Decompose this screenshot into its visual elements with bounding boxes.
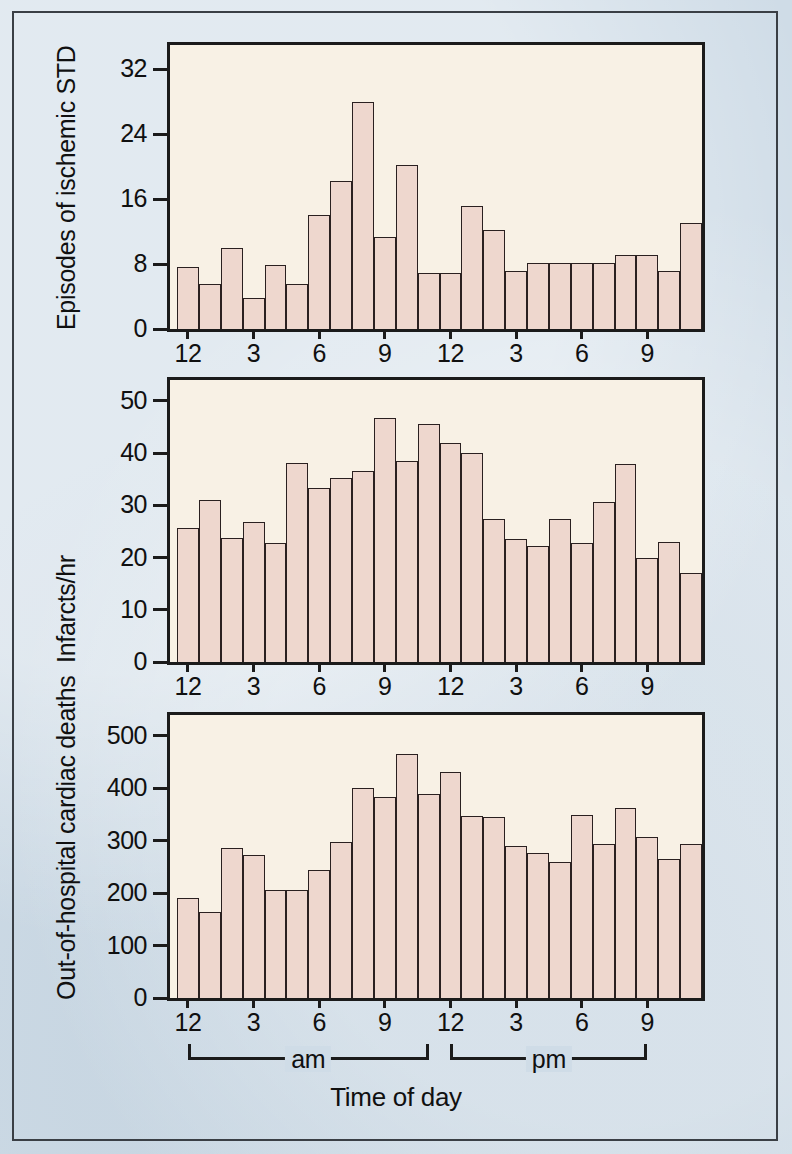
x-tick-label: 6	[289, 672, 349, 701]
y-tick-mark	[153, 504, 168, 507]
y-tick-mark	[153, 608, 168, 611]
bar	[265, 543, 287, 662]
bar	[549, 862, 571, 998]
bar	[199, 500, 221, 662]
x-tick-label: 3	[486, 1008, 546, 1037]
y-tick-label: 400	[72, 773, 147, 802]
y-tick-mark	[153, 892, 168, 895]
x-tick-label: 12	[420, 672, 480, 701]
x-tick-label: 12	[420, 1008, 480, 1037]
x-tick-mark	[646, 999, 649, 1008]
bar	[286, 890, 308, 998]
bar	[177, 898, 199, 998]
y-tick-label: 20	[72, 543, 147, 572]
chart-panel-cardiac-deaths: Out-of-hospital cardiac deaths 010020030…	[0, 0, 792, 440]
y-tick-label: 10	[72, 595, 147, 624]
y-tick-mark	[153, 734, 168, 737]
bar	[527, 546, 549, 662]
bar	[286, 463, 308, 662]
x-tick-label: 3	[486, 672, 546, 701]
bar	[505, 846, 527, 998]
y-tick-label: 500	[72, 721, 147, 750]
x-tick-mark	[515, 663, 518, 672]
x-tick-mark	[580, 999, 583, 1008]
bar	[571, 815, 593, 998]
figure-page: Episodes of ischemic STD 08162432 123691…	[0, 0, 792, 1154]
bar	[221, 538, 243, 662]
y-tick-mark	[153, 944, 168, 947]
x-tick-mark	[186, 999, 189, 1008]
bar	[483, 817, 505, 998]
bar	[352, 471, 374, 662]
bar	[199, 912, 221, 998]
bar	[636, 837, 658, 998]
bar	[374, 797, 396, 998]
bar	[549, 519, 571, 662]
bar	[243, 522, 265, 662]
bar	[593, 844, 615, 998]
bar	[658, 542, 680, 662]
bar	[418, 424, 440, 662]
x-tick-mark	[515, 999, 518, 1008]
x-tick-label: 3	[224, 672, 284, 701]
x-tick-mark	[383, 663, 386, 672]
x-tick-mark	[646, 663, 649, 672]
y-tick-mark	[153, 839, 168, 842]
bar	[352, 788, 374, 998]
y-tick-label: 300	[72, 826, 147, 855]
bar-series-cardiac-deaths	[170, 715, 702, 998]
bar	[680, 573, 702, 662]
x-tick-mark	[383, 999, 386, 1008]
y-tick-label: 0	[72, 983, 147, 1012]
bar	[374, 418, 396, 662]
x-tick-mark	[252, 663, 255, 672]
bar	[418, 794, 440, 998]
bar	[265, 890, 287, 998]
y-tick-mark	[153, 661, 168, 664]
y-tick-mark	[153, 997, 168, 1000]
bar	[396, 754, 418, 998]
x-tick-mark	[252, 999, 255, 1008]
x-tick-label: 12	[158, 672, 218, 701]
bar	[505, 539, 527, 662]
y-tick-mark	[153, 452, 168, 455]
bar	[658, 859, 680, 998]
y-tick-label: 100	[72, 931, 147, 960]
x-tick-label: 9	[355, 672, 415, 701]
x-tick-label: 6	[552, 1008, 612, 1037]
x-tick-mark	[449, 663, 452, 672]
x-tick-mark	[449, 999, 452, 1008]
bar	[330, 842, 352, 998]
bar	[177, 528, 199, 662]
y-tick-label: 30	[72, 490, 147, 519]
bar	[221, 848, 243, 998]
x-tick-label: 9	[355, 1008, 415, 1037]
x-tick-mark	[580, 663, 583, 672]
bar	[571, 543, 593, 662]
bar	[243, 855, 265, 998]
bar	[308, 488, 330, 662]
bar	[440, 443, 462, 662]
bar	[396, 461, 418, 662]
bar	[615, 808, 637, 998]
y-tick-label: 40	[72, 438, 147, 467]
bar	[636, 558, 658, 662]
y-tick-mark	[153, 787, 168, 790]
bar	[483, 519, 505, 662]
bar	[330, 478, 352, 662]
x-tick-mark	[186, 663, 189, 672]
bar	[308, 870, 330, 998]
x-tick-label: 3	[224, 1008, 284, 1037]
y-tick-label: 0	[72, 647, 147, 676]
x-tick-mark	[318, 999, 321, 1008]
x-tick-mark	[318, 663, 321, 672]
x-tick-label: 6	[552, 672, 612, 701]
x-tick-label: 9	[617, 1008, 677, 1037]
y-tick-mark	[153, 556, 168, 559]
bar	[461, 816, 483, 998]
bar	[615, 464, 637, 662]
bar	[527, 853, 549, 998]
bar	[440, 772, 462, 998]
bar	[461, 453, 483, 662]
x-tick-label: 9	[617, 672, 677, 701]
